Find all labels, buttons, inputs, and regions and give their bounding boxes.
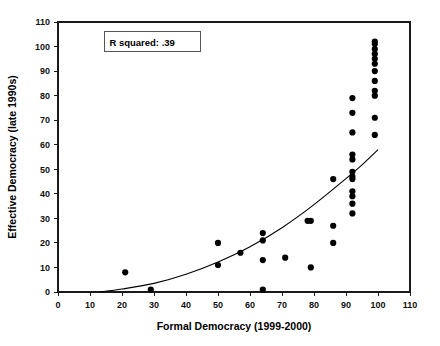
data-point — [349, 95, 355, 101]
data-point — [260, 237, 266, 243]
x-tick-label: 20 — [117, 300, 127, 310]
data-point — [372, 78, 378, 84]
data-point — [372, 93, 378, 99]
data-point — [372, 132, 378, 138]
y-axis-title: Effective Democracy (late 1990s) — [6, 75, 18, 238]
data-point — [122, 269, 128, 275]
y-axis-tick-labels: 0102030405060708090100110 — [35, 17, 50, 297]
x-axis-ticks — [58, 292, 410, 296]
x-tick-label: 110 — [403, 300, 418, 310]
x-tick-label: 10 — [85, 300, 95, 310]
scatter-plot-svg: 0102030405060708090100110 01020304050607… — [0, 0, 440, 346]
data-point — [260, 230, 266, 236]
data-point — [330, 176, 336, 182]
plot-border — [58, 22, 410, 292]
data-point — [372, 115, 378, 121]
data-point — [330, 240, 336, 246]
data-point — [330, 223, 336, 229]
y-tick-label: 110 — [35, 17, 50, 27]
data-point — [308, 264, 314, 270]
y-axis-ticks — [54, 22, 58, 292]
data-point — [372, 61, 378, 67]
regression-curve — [100, 150, 378, 292]
data-point — [349, 176, 355, 182]
x-tick-label: 60 — [245, 300, 255, 310]
data-point — [349, 110, 355, 116]
x-tick-label: 40 — [181, 300, 191, 310]
data-point — [148, 286, 154, 292]
data-point — [237, 250, 243, 256]
x-tick-label: 30 — [149, 300, 159, 310]
r-squared-label: R squared: .39 — [109, 37, 174, 48]
data-point — [260, 257, 266, 263]
r-squared-annotation: R squared: .39 — [104, 32, 200, 52]
y-tick-label: 100 — [35, 42, 50, 52]
x-tick-label: 50 — [213, 300, 223, 310]
data-point — [260, 286, 266, 292]
x-tick-label: 70 — [277, 300, 287, 310]
data-point — [349, 156, 355, 162]
y-tick-label: 50 — [40, 165, 50, 175]
data-point — [349, 210, 355, 216]
y-tick-label: 80 — [40, 91, 50, 101]
data-points — [122, 39, 378, 293]
x-tick-label: 80 — [309, 300, 319, 310]
y-tick-label: 70 — [40, 115, 50, 125]
data-point — [215, 240, 221, 246]
data-point — [282, 255, 288, 261]
data-point — [349, 193, 355, 199]
x-axis-title: Formal Democracy (1999-2000) — [157, 320, 312, 332]
data-point — [349, 129, 355, 135]
data-point — [372, 68, 378, 74]
y-tick-label: 30 — [40, 214, 50, 224]
y-tick-label: 90 — [40, 66, 50, 76]
plot-frame — [58, 22, 410, 292]
y-tick-label: 0 — [45, 287, 50, 297]
y-tick-label: 40 — [40, 189, 50, 199]
data-point — [215, 262, 221, 268]
x-axis-tick-labels: 0102030405060708090100110 — [55, 300, 417, 310]
data-point — [349, 201, 355, 207]
x-tick-label: 0 — [55, 300, 60, 310]
y-tick-label: 10 — [40, 263, 50, 273]
data-point — [308, 218, 314, 224]
x-tick-label: 90 — [341, 300, 351, 310]
chart-figure: 0102030405060708090100110 01020304050607… — [0, 0, 440, 346]
x-tick-label: 100 — [370, 300, 385, 310]
y-tick-label: 60 — [40, 140, 50, 150]
y-tick-label: 20 — [40, 238, 50, 248]
